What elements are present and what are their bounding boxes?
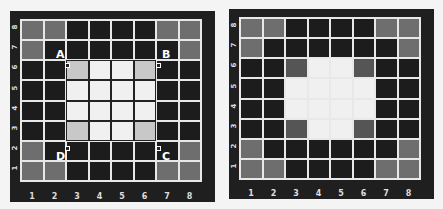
board-square [67,21,88,39]
file-label: 4 [308,189,330,198]
board-square [376,59,397,77]
board-square [331,160,352,178]
rank-label: 8 [230,21,238,29]
grid-right [239,17,421,180]
board-square [264,79,285,97]
board-square [264,160,285,178]
rank-label: 3 [11,124,19,132]
board-square [135,41,156,59]
board-square [180,162,201,180]
board-square [90,102,111,120]
board-square [241,39,262,57]
board-square [22,142,43,160]
board-square [286,140,307,158]
file-label: 6 [134,192,156,201]
board-square [399,100,420,118]
board-square [309,160,330,178]
board-square [331,120,352,138]
board-square [135,102,156,120]
board-square [90,61,111,79]
rank-label: 5 [230,82,238,90]
board-right: 87654321 12345678 [229,9,434,199]
file-label: 5 [111,192,133,201]
board-square [241,160,262,178]
rank-label: 1 [11,164,19,172]
board-square [286,100,307,118]
rank-label: 2 [230,142,238,150]
file-label: 7 [375,189,397,198]
board-square [67,41,88,59]
board-square [112,102,133,120]
board-square [331,59,352,77]
board-square [22,41,43,59]
file-label: 4 [89,192,111,201]
board-square [67,81,88,99]
rank-label: 8 [11,23,19,31]
board-square [376,79,397,97]
board-square [22,61,43,79]
board-square [241,140,262,158]
corner-label-d: D [56,150,65,163]
file-label: 3 [66,192,88,201]
board-square [157,122,178,140]
board-square [354,120,375,138]
board-square [354,39,375,57]
board-square [180,21,201,39]
board-left: 87654321 12345678 A B C D [10,11,215,202]
board-square [331,39,352,57]
board-square [135,162,156,180]
board-square [399,120,420,138]
board-square [90,162,111,180]
board-square [157,102,178,120]
board-square [22,162,43,180]
rank-label: 6 [11,63,19,71]
rank-label: 7 [230,41,238,49]
board-square [309,39,330,57]
board-square [264,39,285,57]
board-square [90,41,111,59]
board-square [90,81,111,99]
board-square [112,142,133,160]
board-square [90,142,111,160]
board-square [135,122,156,140]
file-label: 1 [21,192,43,201]
board-square [135,81,156,99]
board-square [331,100,352,118]
corner-marker-b [156,63,161,68]
board-square [309,120,330,138]
board-square [180,122,201,140]
board-square [157,81,178,99]
file-label: 1 [240,189,262,198]
rank-label: 2 [11,144,19,152]
board-square [241,59,262,77]
board-square [309,19,330,37]
board-square [354,100,375,118]
file-label: 7 [156,192,178,201]
file-label: 2 [44,192,66,201]
board-square [180,102,201,120]
board-square [399,19,420,37]
board-square [112,41,133,59]
board-square [45,102,66,120]
board-square [354,140,375,158]
rank-label: 4 [11,104,19,112]
board-square [45,61,66,79]
board-square [67,102,88,120]
board-square [399,79,420,97]
board-square [45,21,66,39]
board-square [286,59,307,77]
board-square [22,122,43,140]
board-square [399,140,420,158]
board-square [135,142,156,160]
board-square [241,19,262,37]
board-square [90,122,111,140]
rank-label: 4 [230,102,238,110]
corner-marker-d [65,146,70,151]
rank-label: 3 [230,122,238,130]
board-square [180,61,201,79]
board-square [376,19,397,37]
board-square [67,122,88,140]
file-label: 8 [179,192,201,201]
board-square [135,61,156,79]
board-square [22,102,43,120]
